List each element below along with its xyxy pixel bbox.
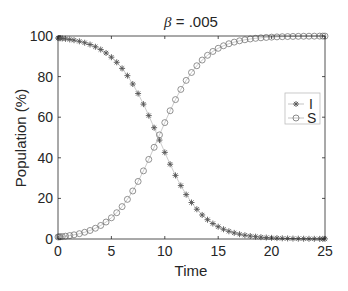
x-axis-label: Time xyxy=(175,262,208,279)
legend: I S xyxy=(285,93,320,126)
x-tick-label: 20 xyxy=(264,243,280,259)
y-axis-label: Population (%) xyxy=(12,89,29,187)
y-tick-label: 60 xyxy=(37,109,53,125)
data-point-i xyxy=(124,73,130,79)
x-tick-label: 15 xyxy=(210,243,226,259)
data-point-i xyxy=(146,113,152,119)
y-tick-label: 100 xyxy=(30,28,54,44)
y-tick-label: 0 xyxy=(45,231,53,247)
data-point-i xyxy=(98,47,104,53)
legend-label-s: S xyxy=(307,110,316,126)
data-point-i xyxy=(92,44,98,50)
data-point-i xyxy=(62,36,68,42)
legend-asterisk xyxy=(293,101,299,107)
data-point-i xyxy=(87,42,93,48)
data-point-i xyxy=(285,235,291,241)
data-point-i xyxy=(71,37,77,43)
x-tick-label: 5 xyxy=(108,243,116,259)
data-point-i xyxy=(290,236,296,242)
data-point-i xyxy=(76,38,82,44)
y-tick-label: 20 xyxy=(37,190,53,206)
x-tick-label: 25 xyxy=(317,243,333,259)
x-tick-label: 10 xyxy=(157,243,173,259)
sir-chart: β = .005 0510152025020406080100 Time Pop… xyxy=(0,0,348,291)
plot-area xyxy=(58,36,325,239)
data-point-i xyxy=(103,50,109,56)
data-point-i xyxy=(279,235,285,241)
y-tick-label: 40 xyxy=(37,150,53,166)
title-value: = .005 xyxy=(172,13,218,30)
chart-title: β = .005 xyxy=(163,13,218,30)
y-tick-label: 80 xyxy=(37,69,53,85)
x-tick-label: 0 xyxy=(54,243,62,259)
asterisk-marker-icon xyxy=(293,101,299,107)
data-point-i xyxy=(114,59,120,65)
data-point-i xyxy=(108,54,114,60)
data-point-i xyxy=(67,36,73,42)
data-point-i xyxy=(82,40,88,46)
data-point-i xyxy=(119,65,125,71)
